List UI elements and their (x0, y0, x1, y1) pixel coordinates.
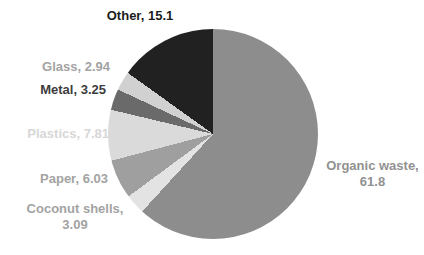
data-label-metal: Metal, 3.25 (5, 82, 106, 98)
data-label-metal-text: Metal, 3.25 (40, 82, 106, 97)
data-label-glass: Glass, 2.94 (10, 59, 110, 75)
data-label-organic-waste: Organic waste, 61.8 (324, 158, 421, 190)
data-label-other: Other, 15.1 (75, 8, 205, 24)
data-label-coconut-shells-value: 3.09 (10, 217, 140, 233)
data-label-organic-waste-text: Organic waste, (326, 158, 418, 173)
data-label-coconut-shells-text: Coconut shells, (27, 201, 124, 216)
data-label-paper: Paper, 6.03 (8, 171, 108, 187)
data-label-other-text: Other, 15.1 (107, 8, 173, 23)
data-label-glass-text: Glass, 2.94 (42, 59, 110, 74)
data-label-plastics: Plastics, 7.81 (8, 126, 109, 142)
data-label-organic-waste-value: 61.8 (324, 174, 421, 190)
data-label-coconut-shells: Coconut shells, 3.09 (10, 201, 140, 233)
data-label-paper-text: Paper, 6.03 (40, 171, 108, 186)
data-label-plastics-text: Plastics, 7.81 (27, 126, 109, 141)
pie-chart-figure: Other, 15.1 Glass, 2.94 Metal, 3.25 Plas… (0, 0, 424, 255)
